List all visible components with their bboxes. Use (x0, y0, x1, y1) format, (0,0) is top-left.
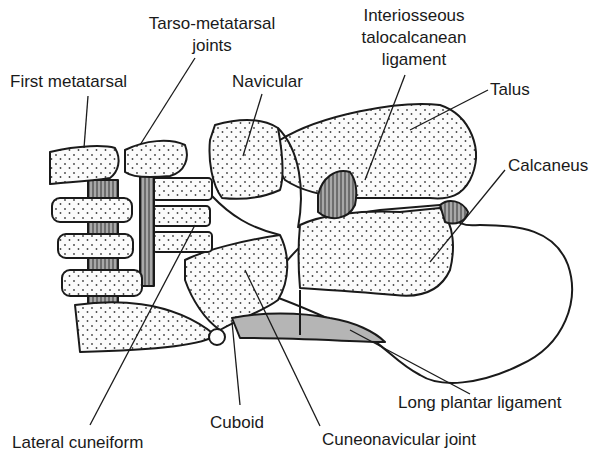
label-interosseous-line1: Interiosseous (344, 6, 484, 25)
metatarsal-2 (52, 198, 132, 222)
metatarsal-base-2 (125, 141, 187, 177)
label-cuboid: Cuboid (210, 413, 264, 432)
tm-joint-cartilage (140, 176, 154, 286)
cuboid-bead (209, 329, 225, 345)
foot-anatomy-diagram: First metatarsal Tarso-metatarsal joints… (0, 0, 609, 465)
label-interosseous-line2: talocalcanean (344, 28, 484, 47)
label-calcaneus: Calcaneus (508, 156, 588, 175)
label-navicular: Navicular (232, 72, 303, 91)
label-talus: Talus (490, 80, 530, 99)
label-tarso-metatarsal-line2: joints (132, 36, 292, 55)
metatarsal-5 (75, 302, 215, 352)
label-cuneonavicular-joint: Cuneonavicular joint (322, 430, 476, 449)
label-tarso-metatarsal-line1: Tarso-metatarsal (132, 14, 292, 33)
label-long-plantar-ligament: Long plantar ligament (398, 393, 562, 412)
navicular-bone (210, 120, 283, 199)
metatarsal-4 (62, 270, 142, 296)
first-metatarsal-bone (50, 146, 119, 184)
label-interosseous-line3: ligament (344, 50, 484, 69)
cuneiform-2 (152, 206, 210, 226)
label-first-metatarsal: First metatarsal (10, 72, 127, 91)
label-lateral-cuneiform: Lateral cuneiform (12, 433, 143, 452)
calcaneus-bone (299, 208, 453, 296)
metatarsal-3 (58, 234, 133, 258)
cuneiform-1 (152, 178, 212, 200)
